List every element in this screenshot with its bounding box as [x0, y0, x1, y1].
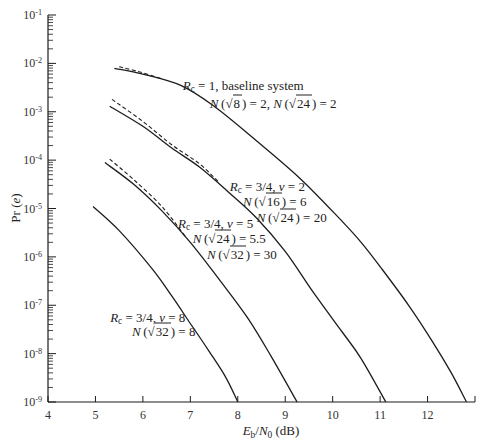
x-tick-label: 12	[422, 409, 434, 421]
annotation-v8: Rc = 3/4, v = 8	[110, 311, 185, 324]
data-series	[93, 67, 466, 402]
x-tick-label: 6	[140, 409, 146, 421]
y-tick-label: 10-6	[23, 251, 42, 263]
y-tick-label: 10-4	[23, 154, 42, 166]
annotation-v2: N (√24) = 20	[257, 210, 327, 223]
annotation-v8: N (√32) = 8	[132, 325, 195, 338]
annotation-baseline: N (√8) = 2, N (√24) = 2	[210, 97, 337, 110]
annotation-v2: N (√16) = 6	[243, 195, 306, 208]
y-axis-label: Pr (e)	[9, 193, 22, 222]
annotation-baseline: Rc = 1, baseline system	[183, 79, 304, 92]
y-tick-label: 10-8	[23, 348, 42, 360]
y-tick-label: 10-3	[23, 106, 42, 118]
y-tick-label: 10-5	[23, 203, 42, 215]
solid-curve	[114, 68, 466, 402]
x-tick-label: 4	[45, 409, 51, 421]
x-axis-label: Eb/N0 (dB)	[243, 424, 300, 437]
x-tick-label: 9	[282, 409, 288, 421]
chart-figure: Pr (e) Eb/N0 (dB) 10-110-210-310-410-510…	[0, 0, 483, 444]
dashed-curve	[110, 159, 186, 237]
annotation-v2: Rc = 3/4, v = 2	[230, 180, 305, 193]
annotation-v5: Rc = 3/4, v = 5	[178, 217, 253, 230]
annotation-v5: N (√24) = 5.5	[193, 232, 266, 245]
x-tick-label: 11	[374, 409, 386, 421]
annotation-v5: N (√32) = 30	[207, 247, 277, 260]
x-tick-label: 7	[187, 409, 193, 421]
x-tick-label: 10	[327, 409, 339, 421]
y-tick-label: 10-7	[23, 299, 42, 311]
x-tick-label: 8	[235, 409, 241, 421]
y-tick-label: 10-9	[23, 396, 42, 408]
y-tick-label: 10-1	[23, 9, 42, 21]
y-tick-label: 10-2	[23, 57, 42, 69]
x-tick-label: 5	[92, 409, 98, 421]
